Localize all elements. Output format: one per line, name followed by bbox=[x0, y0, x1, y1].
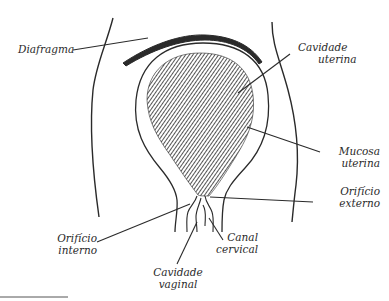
label-diafragma: Diafragma bbox=[18, 43, 74, 55]
cervical-canal bbox=[187, 196, 214, 232]
label-cavidade-vaginal-line1: Cavidade bbox=[152, 266, 204, 278]
leader-diafragma bbox=[73, 38, 148, 50]
label-orificio-interno: Orifício interno bbox=[52, 232, 97, 256]
leader-orificio-externo bbox=[210, 197, 313, 202]
label-cavidade-vaginal: Cavidade vaginal bbox=[152, 266, 204, 290]
label-cavidade-uterina-line2: uterina bbox=[298, 53, 357, 65]
label-mucosa-uterina-line1: Mucosa bbox=[336, 145, 380, 157]
label-diafragma-text: Diafragma bbox=[18, 43, 74, 55]
right-body-contour bbox=[272, 22, 298, 222]
label-mucosa-uterina-line2: uterina bbox=[336, 157, 380, 169]
uterine-cavity bbox=[147, 53, 254, 196]
label-orificio-externo-line1: Orifício bbox=[333, 185, 380, 197]
label-orificio-interno-line2: interno bbox=[52, 244, 97, 256]
label-mucosa-uterina: Mucosa uterina bbox=[336, 145, 380, 169]
label-orificio-interno-line1: Orifício bbox=[52, 232, 97, 244]
label-orificio-externo: Orifício externo bbox=[333, 185, 380, 209]
label-cavidade-vaginal-line2: vaginal bbox=[152, 278, 204, 290]
label-cavidade-uterina-line1: Cavidade bbox=[298, 41, 357, 53]
label-cavidade-uterina: Cavidade uterina bbox=[298, 41, 357, 65]
label-canal-cervical-line2: cervical bbox=[214, 243, 258, 255]
label-canal-cervical: Canal cervical bbox=[214, 231, 258, 255]
left-body-contour bbox=[91, 18, 113, 217]
leader-mucosa-uterina bbox=[247, 127, 320, 152]
label-orificio-externo-line2: externo bbox=[333, 197, 380, 209]
label-canal-cervical-line1: Canal bbox=[214, 231, 258, 243]
